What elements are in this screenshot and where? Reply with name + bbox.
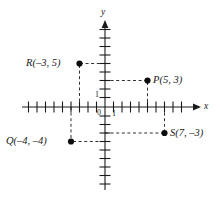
point-label-Q: Q(–4, –4) <box>6 136 47 147</box>
point-label-R: R(–3, 5) <box>26 58 60 69</box>
y-axis-label: y <box>101 8 105 18</box>
plot-canvas <box>0 0 220 204</box>
x-unit-label: 1 <box>112 110 116 118</box>
origin-label: 0 <box>97 109 101 117</box>
coordinate-plane-figure: R(–3, 5) P(5, 3) Q(–4, –4) S(7, –3) x y … <box>0 0 220 204</box>
point-label-S: S(7, –3) <box>170 128 203 139</box>
point-label-P: P(5, 3) <box>153 75 182 86</box>
dashed-guides-P <box>105 81 148 108</box>
y-axis <box>102 20 109 190</box>
point-R[interactable] <box>76 60 82 66</box>
point-Q[interactable] <box>68 138 74 144</box>
dashed-guides-R <box>80 64 106 108</box>
x-axis-label: x <box>204 102 208 112</box>
y-unit-label: 1 <box>95 91 99 99</box>
point-S[interactable] <box>161 130 167 136</box>
point-P[interactable] <box>144 77 150 83</box>
